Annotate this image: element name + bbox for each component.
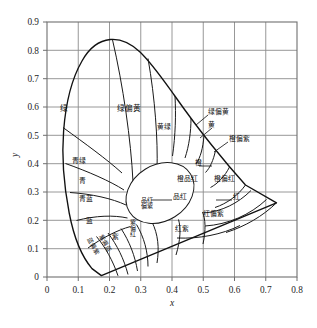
region-label-red-purplish: 红偏紫 (203, 211, 224, 218)
y-tick: 0.6 (27, 102, 39, 112)
region-label-orange-reddish: 橙偏红 (214, 176, 235, 183)
x-axis-title: x (169, 298, 175, 308)
y-tick: 0.7 (27, 74, 39, 84)
region-label-purple-reddish: 紫偏红 (128, 219, 138, 237)
region-label-blue-cyan: 青蓝 (79, 196, 93, 203)
x-tick: 0 (45, 285, 50, 295)
region-label-orange-purplish: 橙偏紫 (229, 136, 250, 143)
chromaticity-diagram-figure: 0 0.1 0.2 0.3 0.4 0.5 0.6 0.7 0.8 0 0.1 … (0, 0, 317, 328)
x-tick: 0.7 (260, 285, 272, 295)
region-label-cyan: 青 (79, 178, 86, 185)
region-label-green-yellow-2: 绿偏黄 (208, 109, 229, 116)
y-tick: 0 (34, 272, 39, 282)
x-tick-marks (47, 277, 297, 281)
y-tick: 0.4 (27, 159, 39, 169)
y-tick: 0.1 (27, 244, 39, 254)
region-label-green: 绿 (60, 105, 68, 113)
x-tick: 0.6 (229, 285, 241, 295)
region-label-orange: 橙 (195, 160, 202, 167)
y-tick: 0.3 (27, 187, 39, 197)
x-tick: 0.5 (197, 285, 209, 295)
diagram-canvas: 0 0.1 0.2 0.3 0.4 0.5 0.6 0.7 0.8 0 0.1 … (0, 0, 317, 328)
y-tick-marks (43, 22, 47, 277)
y-tick: 0.5 (27, 131, 39, 141)
region-label-yellow: 黄 (208, 122, 215, 129)
y-tick: 0.8 (27, 46, 39, 56)
y-axis-title: y (10, 152, 20, 158)
x-tick-labels: 0 0.1 0.2 0.3 0.4 0.5 0.6 0.7 0.8 (45, 285, 303, 295)
x-tick: 0.8 (291, 285, 303, 295)
x-tick: 0.4 (166, 285, 178, 295)
x-tick: 0.1 (72, 285, 84, 295)
y-tick: 0.2 (27, 216, 39, 226)
y-tick-labels: 0 0.1 0.2 0.3 0.4 0.5 0.6 0.7 0.8 0.9 (27, 17, 39, 282)
x-tick: 0.2 (104, 285, 116, 295)
region-label-blue: 蓝 (86, 218, 93, 225)
region-label-cyan-green: 青绿 (72, 158, 86, 165)
region-label-magenta: 品红 (173, 194, 187, 201)
region-label-red: 红 (233, 194, 240, 201)
y-tick: 0.9 (27, 17, 39, 27)
region-label-purple: 紫 (112, 234, 119, 241)
region-label-yellow-green: 黄绿 (157, 124, 171, 131)
region-label-green-yellowish: 绿偏黄 (117, 105, 141, 113)
region-label-magenta-purplish: 品红偏紫 (141, 197, 153, 209)
region-label-orange-magenta: 橙品红 (177, 176, 198, 183)
region-label-red-purple: 红紫 (175, 226, 189, 233)
x-tick: 0.3 (135, 285, 147, 295)
